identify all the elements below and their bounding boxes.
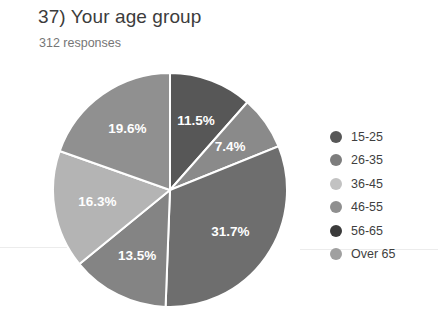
- legend-item-label: 56-65: [351, 225, 383, 238]
- legend-item-label: 36-45: [351, 178, 383, 191]
- legend-item-label: 15-25: [351, 131, 383, 144]
- legend-item[interactable]: 36-45: [330, 172, 434, 196]
- legend-item-label: Over 65: [351, 248, 395, 261]
- pie-slice-value-label: 13.5%: [118, 248, 156, 263]
- pie-slice-value-label: 19.6%: [108, 121, 146, 136]
- pie-slice-value-label: 16.3%: [78, 194, 116, 209]
- legend-item-label: 26-35: [351, 154, 383, 167]
- legend-color-swatch-icon: [330, 248, 342, 260]
- pie-chart: 11.5%7.4%31.7%13.5%16.3%19.6%: [52, 72, 288, 308]
- pie-slice-group: [53, 73, 287, 307]
- legend-color-swatch-icon: [330, 178, 342, 190]
- pie-chart-svg: 11.5%7.4%31.7%13.5%16.3%19.6%: [52, 72, 288, 308]
- legend-item[interactable]: 46-55: [330, 196, 434, 220]
- pie-slice-value-label: 7.4%: [215, 139, 246, 154]
- page-title: 37) Your age group: [38, 6, 201, 28]
- legend-color-swatch-icon: [330, 225, 342, 237]
- legend-color-swatch-icon: [330, 131, 342, 143]
- chart-legend: 15-2526-3536-4546-5556-65Over 65: [330, 125, 434, 266]
- legend-color-swatch-icon: [330, 154, 342, 166]
- legend-color-swatch-icon: [330, 201, 342, 213]
- legend-item-label: 46-55: [351, 201, 383, 214]
- pie-slice-value-label: 31.7%: [211, 224, 249, 239]
- pie-chart-card: 37) Your age group 312 responses 11.5%7.…: [0, 0, 438, 331]
- legend-item[interactable]: 26-35: [330, 149, 434, 173]
- legend-item[interactable]: 15-25: [330, 125, 434, 149]
- legend-item[interactable]: 56-65: [330, 219, 434, 243]
- legend-item[interactable]: Over 65: [330, 243, 434, 267]
- response-count-label: 312 responses: [39, 36, 121, 50]
- pie-slice-value-label: 11.5%: [177, 113, 215, 128]
